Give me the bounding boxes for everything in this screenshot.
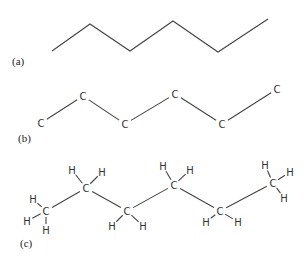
hydrogen-atom: H xyxy=(139,221,147,232)
carbon-atom: C xyxy=(122,119,129,130)
hexane-diagram: (a) CCCCCC (b) CHHHCHHCHHCHHCHHCHHH (c) xyxy=(0,0,308,262)
hydrogen-bond xyxy=(211,215,216,219)
carbon-bond xyxy=(92,191,121,207)
hydrogen-bond xyxy=(76,175,83,184)
carbon-atom: C xyxy=(38,118,45,129)
hydrogen-atom: H xyxy=(159,161,167,172)
hydrogen-atom: H xyxy=(186,165,194,176)
carbon-bond xyxy=(133,188,168,207)
skeletal-chain-line xyxy=(52,19,268,52)
carbon-atom: C xyxy=(171,180,178,191)
carbon-atom: C xyxy=(172,89,179,100)
hydrogen-atom: H xyxy=(29,194,37,205)
carbon-atom: C xyxy=(83,183,90,194)
carbon-atom: C xyxy=(217,206,224,217)
carbon-atom: C xyxy=(219,119,226,130)
hydrogen-atom: H xyxy=(286,167,294,178)
carbon-atom: C xyxy=(124,206,131,217)
hydrogen-atom: H xyxy=(98,167,106,178)
hydrogen-bond xyxy=(267,170,270,177)
carbon-bond xyxy=(89,100,119,120)
hydrogen-atom: H xyxy=(202,217,210,228)
hydrogen-bond xyxy=(116,215,123,222)
hydrogen-atom: H xyxy=(234,217,242,228)
carbon-bond xyxy=(52,191,80,207)
hydrogen-bond xyxy=(37,203,41,207)
hydrogen-atom: H xyxy=(280,193,288,204)
hydrogen-atom: H xyxy=(108,221,116,232)
panel-c-full-structure: CHHHCHHCHHCHHCHHCHHH xyxy=(23,160,294,236)
panel-a-label: (a) xyxy=(12,55,25,68)
hydrogen-bond xyxy=(166,171,171,180)
carbon-bond xyxy=(226,186,267,207)
hydrogen-atom: H xyxy=(261,160,269,171)
hydrogen-bond xyxy=(225,214,233,219)
carbon-bond xyxy=(228,93,271,120)
carbon-bond xyxy=(180,188,214,207)
hydrogen-bond xyxy=(131,215,138,222)
panel-b-label: (b) xyxy=(18,132,31,145)
hydrogen-bond xyxy=(32,214,40,218)
hydrogen-bond xyxy=(278,175,285,179)
carbon-atom: C xyxy=(270,178,277,189)
carbon-bond xyxy=(131,98,169,121)
hydrogen-bond xyxy=(90,176,98,184)
carbon-atom: C xyxy=(274,84,281,95)
carbon-atom: C xyxy=(80,91,87,102)
hydrogen-atom: H xyxy=(23,216,31,227)
hydrogen-atom: H xyxy=(42,225,50,236)
hydrogen-atom: H xyxy=(68,165,76,176)
panel-a-skeletal xyxy=(52,19,268,52)
hydrogen-bond xyxy=(178,174,185,181)
carbon-bond xyxy=(181,98,216,120)
panel-b-carbon-chain: CCCCCC xyxy=(38,84,281,130)
carbon-atom: C xyxy=(43,206,50,217)
panel-c-label: (c) xyxy=(20,237,33,250)
carbon-bond xyxy=(47,100,77,119)
